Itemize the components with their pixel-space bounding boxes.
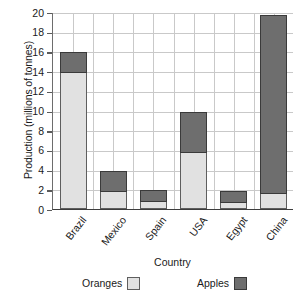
- bar-stack[interactable]: [60, 52, 87, 209]
- bar-segment-oranges[interactable]: [60, 71, 87, 209]
- plot-area: [52, 13, 293, 210]
- y-axis-tick-label: 16: [16, 47, 44, 58]
- bar-segment-apples[interactable]: [260, 15, 287, 194]
- legend-swatch-oranges-icon: [127, 277, 140, 290]
- bar-segment-apples[interactable]: [220, 191, 247, 202]
- bar-chart: Production (millions of tonnes) 02468101…: [0, 0, 302, 296]
- gridline-vertical: [254, 13, 255, 209]
- y-axis-tick-label: 0: [16, 205, 44, 216]
- gridline-vertical: [174, 13, 175, 209]
- y-axis-tick: [47, 92, 52, 93]
- bar-stack[interactable]: [100, 171, 127, 209]
- y-axis-tick-label: 10: [16, 106, 44, 117]
- y-axis-tick: [47, 112, 52, 113]
- y-axis-tick: [47, 72, 52, 73]
- bar-stack[interactable]: [140, 190, 167, 209]
- bar-segment-oranges[interactable]: [260, 192, 287, 209]
- bar-segment-apples[interactable]: [140, 190, 167, 201]
- chart-legend: Oranges Apples: [52, 275, 293, 293]
- y-axis-tick: [47, 171, 52, 172]
- bar-stack[interactable]: [180, 112, 207, 209]
- bar-segment-apples[interactable]: [180, 112, 207, 153]
- bar-segment-apples[interactable]: [60, 52, 87, 72]
- gridlines: [53, 13, 293, 209]
- y-axis-tick-label: 6: [16, 145, 44, 156]
- y-axis-tick-label: 4: [16, 165, 44, 176]
- y-axis-tick-label: 20: [16, 8, 44, 19]
- y-axis-tick-label: 8: [16, 126, 44, 137]
- y-axis-tick-label: 14: [16, 67, 44, 78]
- bar-segment-apples[interactable]: [100, 171, 127, 192]
- gridline-vertical: [153, 13, 154, 209]
- y-axis-tick-label: 18: [16, 27, 44, 38]
- y-axis-tick: [47, 13, 52, 14]
- bar-stack[interactable]: [260, 15, 287, 209]
- legend-item-apples: Apples: [197, 275, 247, 291]
- gridline-vertical: [133, 13, 134, 209]
- bar-stack[interactable]: [220, 191, 247, 209]
- bar-segment-oranges[interactable]: [180, 152, 207, 209]
- legend-label-oranges: Oranges: [82, 277, 122, 289]
- gridline-vertical: [93, 13, 94, 209]
- y-axis-tick-label: 12: [16, 86, 44, 97]
- legend-label-apples: Apples: [197, 277, 229, 289]
- y-axis-tick: [47, 190, 52, 191]
- x-axis-title: Country: [52, 256, 293, 268]
- bar-segment-oranges[interactable]: [100, 190, 127, 209]
- y-axis-tick-label: 2: [16, 185, 44, 196]
- y-axis-tick: [47, 52, 52, 53]
- gridline-vertical: [214, 13, 215, 209]
- y-axis-tick: [47, 131, 52, 132]
- legend-swatch-apples-icon: [234, 277, 247, 290]
- y-axis-tick: [47, 151, 52, 152]
- y-axis-tick: [47, 33, 52, 34]
- y-axis-tick: [47, 210, 52, 211]
- gridline-vertical: [234, 13, 235, 209]
- legend-item-oranges: Oranges: [82, 275, 140, 291]
